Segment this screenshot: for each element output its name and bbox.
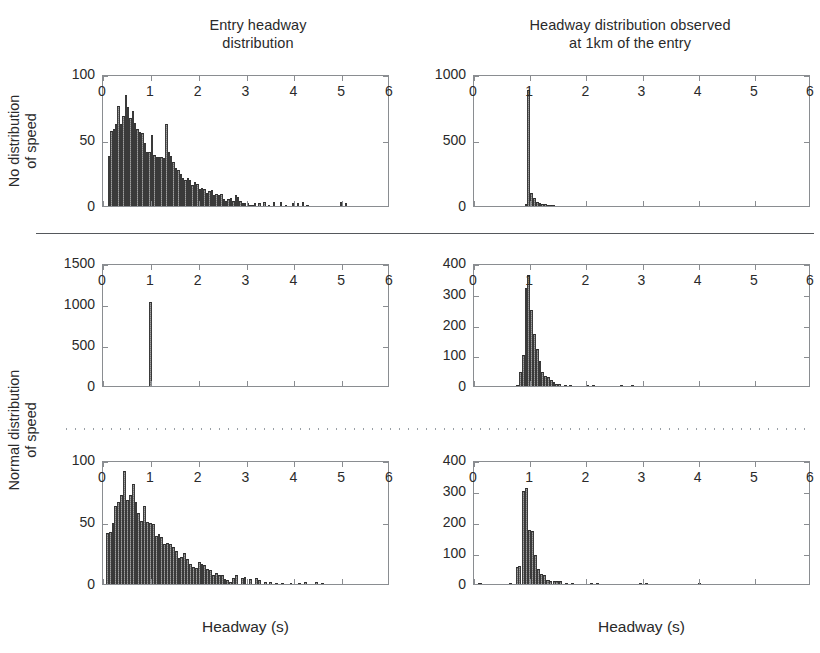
y-tick <box>474 296 479 297</box>
y-tick-label: 400 <box>412 452 473 468</box>
y-tick <box>103 265 108 266</box>
x-tick <box>699 579 700 584</box>
xaxis-title-right: Headway (s) <box>473 618 810 636</box>
x-tick-label: 1 <box>514 272 544 288</box>
y-tick <box>474 462 479 463</box>
histogram-bar <box>304 582 307 584</box>
x-tick <box>151 381 152 386</box>
x-tick-label: 3 <box>627 272 657 288</box>
y-tick-right <box>383 306 388 307</box>
histogram-bar <box>478 583 481 584</box>
x-tick-top <box>699 462 700 467</box>
y-tick-label: 1000 <box>412 66 473 82</box>
y-tick-right <box>804 357 809 358</box>
x-tick-label: 6 <box>795 469 820 485</box>
histogram-bar <box>254 203 256 206</box>
x-tick-top <box>755 76 756 81</box>
x-tick <box>294 579 295 584</box>
x-tick-label: 6 <box>374 83 404 99</box>
y-tick-label: 100 <box>412 347 473 363</box>
y-tick-right <box>804 327 809 328</box>
x-tick <box>755 381 756 386</box>
x-tick-label: 5 <box>326 469 356 485</box>
x-tick <box>103 381 104 386</box>
x-tick <box>643 579 644 584</box>
x-tick <box>474 201 475 206</box>
row-label-no-distribution-of-speed: No distribution of speed <box>6 66 40 216</box>
x-tick-label: 1 <box>135 83 165 99</box>
y-tick-label: 300 <box>412 483 473 499</box>
x-tick-label: 5 <box>326 272 356 288</box>
x-tick-label: 3 <box>231 83 261 99</box>
x-tick <box>151 201 152 206</box>
histogram-bar <box>553 205 556 206</box>
y-tick-label: 200 <box>412 317 473 333</box>
y-tick-right <box>804 555 809 556</box>
x-tick-label: 5 <box>739 469 769 485</box>
y-tick-right <box>804 76 809 77</box>
row-label-line2: of speed <box>23 66 40 216</box>
x-tick-label: 4 <box>683 272 713 288</box>
histogram-bar <box>268 205 270 206</box>
histogram-bar <box>290 583 293 584</box>
y-tick <box>474 555 479 556</box>
x-tick-top <box>530 462 531 467</box>
x-tick-top <box>151 265 152 270</box>
histogram-bar <box>306 205 308 206</box>
histogram-bar <box>269 582 272 584</box>
y-tick <box>474 76 479 77</box>
y-tick-label: 500 <box>412 132 473 148</box>
histogram-bar <box>558 384 561 386</box>
histogram-bar <box>571 583 574 584</box>
x-tick <box>294 381 295 386</box>
x-tick-top <box>247 265 248 270</box>
x-tick-top <box>699 76 700 81</box>
row-separator-solid <box>36 233 814 234</box>
x-tick <box>586 381 587 386</box>
chart-panel-middle-right: 01234560100200300400 <box>473 264 810 387</box>
x-tick <box>586 579 587 584</box>
x-tick-top <box>643 76 644 81</box>
x-tick-label: 1 <box>135 469 165 485</box>
x-tick <box>294 201 295 206</box>
histogram-bar <box>258 203 260 206</box>
x-tick <box>199 201 200 206</box>
y-tick <box>474 524 479 525</box>
x-tick-top <box>530 76 531 81</box>
x-tick <box>342 381 343 386</box>
y-tick-label: 0 <box>41 198 102 214</box>
x-tick-label: 3 <box>231 469 261 485</box>
histogram-bar <box>249 579 252 584</box>
x-tick-label: 2 <box>183 83 213 99</box>
x-tick-label: 5 <box>739 83 769 99</box>
x-tick-label: 4 <box>278 83 308 99</box>
y-tick-label: 200 <box>412 514 473 530</box>
x-tick <box>643 381 644 386</box>
y-tick-label: 1500 <box>41 255 102 271</box>
x-tick-label: 1 <box>135 272 165 288</box>
y-tick-label: 0 <box>412 198 473 214</box>
histogram-bar <box>564 385 567 386</box>
x-tick-top <box>199 76 200 81</box>
histogram-bar <box>302 202 304 206</box>
histogram-bar <box>527 90 530 206</box>
histogram-bar <box>321 583 324 584</box>
x-tick-label: 3 <box>627 83 657 99</box>
x-tick-label: 1 <box>514 469 544 485</box>
chart-panel-bottom-right: 01234560100200300400 <box>473 461 810 585</box>
x-tick-top <box>586 76 587 81</box>
x-tick <box>199 579 200 584</box>
x-tick-top <box>294 76 295 81</box>
histogram-bar <box>569 385 572 386</box>
histogram-bar <box>559 581 562 584</box>
xaxis-title-left: Headway (s) <box>102 618 389 636</box>
histogram-bar <box>258 580 261 584</box>
x-tick <box>530 579 531 584</box>
histogram-bar <box>565 583 568 584</box>
x-tick <box>247 201 248 206</box>
x-tick-label: 6 <box>374 272 404 288</box>
x-tick-label: 2 <box>183 272 213 288</box>
y-tick <box>474 142 479 143</box>
x-tick <box>247 381 248 386</box>
y-tick-right <box>804 265 809 266</box>
